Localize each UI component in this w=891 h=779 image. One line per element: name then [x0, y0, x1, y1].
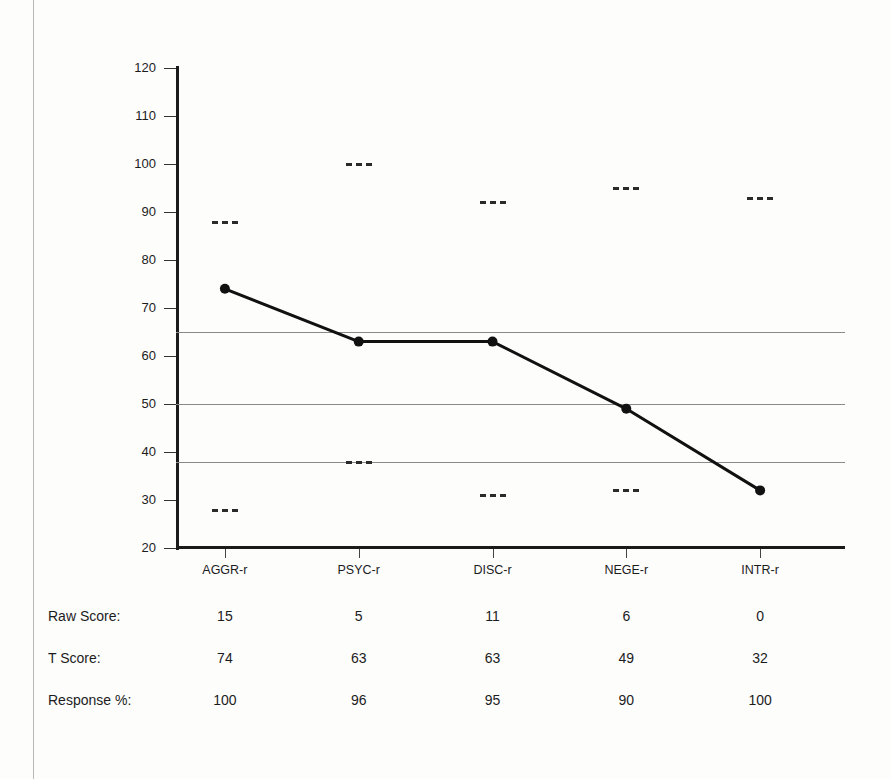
profile-chart: 1201101009080706050403020 AGGR-rPSYC-rDI…	[0, 0, 891, 600]
cell-psyc-r: 96	[299, 692, 419, 708]
cell-disc-r: 95	[433, 692, 553, 708]
t-score-line-series	[0, 0, 891, 600]
cell-disc-r: 11	[433, 608, 553, 624]
cell-nege-r: 90	[566, 692, 686, 708]
data-point-aggr-r	[220, 284, 230, 294]
table-row: T Score:7463634932	[0, 640, 891, 682]
score-table: Raw Score:1551160T Score:7463634932Respo…	[0, 598, 891, 724]
data-point-disc-r	[488, 337, 498, 347]
series-line-t-score	[225, 289, 760, 491]
cell-intr-r: 32	[700, 650, 820, 666]
cell-aggr-r: 74	[165, 650, 285, 666]
table-row: Response %:100969590100	[0, 682, 891, 724]
cell-psyc-r: 63	[299, 650, 419, 666]
cell-nege-r: 6	[566, 608, 686, 624]
row-label-tscore: T Score:	[48, 650, 101, 666]
row-label-rawscore: Raw Score:	[48, 608, 120, 624]
data-point-nege-r	[621, 404, 631, 414]
cell-aggr-r: 100	[165, 692, 285, 708]
cell-psyc-r: 5	[299, 608, 419, 624]
cell-nege-r: 49	[566, 650, 686, 666]
cell-intr-r: 100	[700, 692, 820, 708]
data-point-intr-r	[755, 485, 765, 495]
cell-disc-r: 63	[433, 650, 553, 666]
table-row: Raw Score:1551160	[0, 598, 891, 640]
row-label-response: Response %:	[48, 692, 131, 708]
data-point-psyc-r	[354, 337, 364, 347]
cell-intr-r: 0	[700, 608, 820, 624]
cell-aggr-r: 15	[165, 608, 285, 624]
